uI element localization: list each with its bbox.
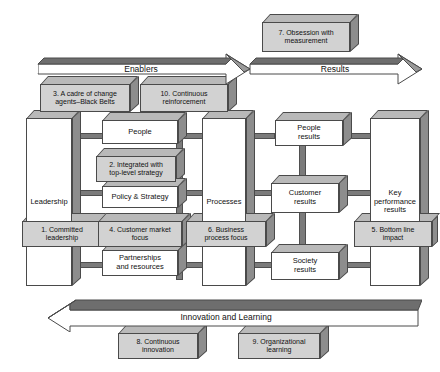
block-side-face: [350, 14, 359, 52]
six-sigma-3-block[interactable]: 3. A cadre of change agents–Black Belts: [40, 84, 130, 112]
innovation-learning-label: Innovation and Learning: [30, 312, 422, 322]
block-side-face: [266, 213, 275, 247]
six-sigma-5-label: 5. Bottom line impact: [354, 221, 432, 247]
efqm-processes-block[interactable]: Processes: [202, 118, 246, 286]
block-side-face: [420, 110, 429, 286]
six-sigma-10-label: 10. Continuous reinforcement: [140, 84, 228, 112]
six-sigma-3-label: 3. A cadre of change agents–Black Belts: [40, 84, 130, 112]
block-side-face: [432, 216, 438, 247]
efqm-policy-strategy-block[interactable]: Policy & Strategy: [102, 186, 178, 208]
efqm-policy-strategy-label: Policy & Strategy: [102, 186, 178, 208]
six-sigma-9-label: 9. Organizational learning: [238, 333, 320, 359]
enablers-label: Enablers: [30, 64, 252, 74]
efqm-leadership-block[interactable]: Leadership: [26, 118, 72, 286]
results-label: Results: [246, 64, 424, 74]
efqm-key-performance-results-block[interactable]: Key performance results: [370, 118, 420, 286]
six-sigma-7-label: 7. Obsession with measurement: [262, 22, 350, 52]
six-sigma-8-block[interactable]: 8. Continuous innovation: [118, 333, 198, 359]
six-sigma-5-block[interactable]: 5. Bottom line impact: [354, 221, 432, 247]
efqm-partnerships-block[interactable]: Partnerships and resources: [102, 250, 178, 276]
efqm-customer-results-label: Customer results: [271, 183, 339, 213]
efqm-people-results-label: People results: [275, 120, 343, 146]
efqm-people-block[interactable]: People: [102, 120, 178, 144]
enablers-arrow: Enablers: [30, 52, 252, 86]
block-side-face: [246, 110, 255, 286]
block-side-face: [72, 110, 81, 286]
efqm-people-results-block[interactable]: People results: [275, 120, 343, 146]
six-sigma-6-label: 6. Business process focus: [186, 221, 266, 247]
six-sigma-2-block[interactable]: 2. Integrated with top-level strategy: [96, 156, 176, 182]
efqm-key-performance-results-label: Key performance results: [370, 118, 420, 286]
block-side-face: [343, 112, 352, 146]
six-sigma-4-block[interactable]: 4. Customer market focus: [98, 221, 182, 247]
efqm-partnerships-label: Partnerships and resources: [102, 250, 178, 276]
block-side-face: [176, 148, 185, 182]
six-sigma-10-block[interactable]: 10. Continuous reinforcement: [140, 84, 228, 112]
six-sigma-4-label: 4. Customer market focus: [98, 221, 182, 247]
six-sigma-1-label: 1. Committed leadership: [22, 221, 102, 247]
efqm-society-results-label: Society results: [271, 252, 339, 280]
six-sigma-8-label: 8. Continuous innovation: [118, 333, 198, 359]
six-sigma-6-block[interactable]: 6. Business process focus: [186, 221, 266, 247]
results-arrow: Results: [246, 52, 424, 86]
block-side-face: [339, 175, 348, 213]
efqm-leadership-label: Leadership: [26, 118, 72, 286]
efqm-processes-label: Processes: [202, 118, 246, 286]
six-sigma-2-label: 2. Integrated with top-level strategy: [96, 156, 176, 182]
block-side-face: [339, 244, 348, 280]
six-sigma-1-block[interactable]: 1. Committed leadership: [22, 221, 102, 247]
six-sigma-7-block[interactable]: 7. Obsession with measurement: [262, 22, 350, 52]
efqm-society-results-block[interactable]: Society results: [271, 252, 339, 280]
innovation-learning-arrow: Innovation and Learning: [30, 298, 422, 332]
six-sigma-9-block[interactable]: 9. Organizational learning: [238, 333, 320, 359]
block-side-face: [178, 242, 187, 276]
efqm-people-label: People: [102, 120, 178, 144]
efqm-customer-results-block[interactable]: Customer results: [271, 183, 339, 213]
